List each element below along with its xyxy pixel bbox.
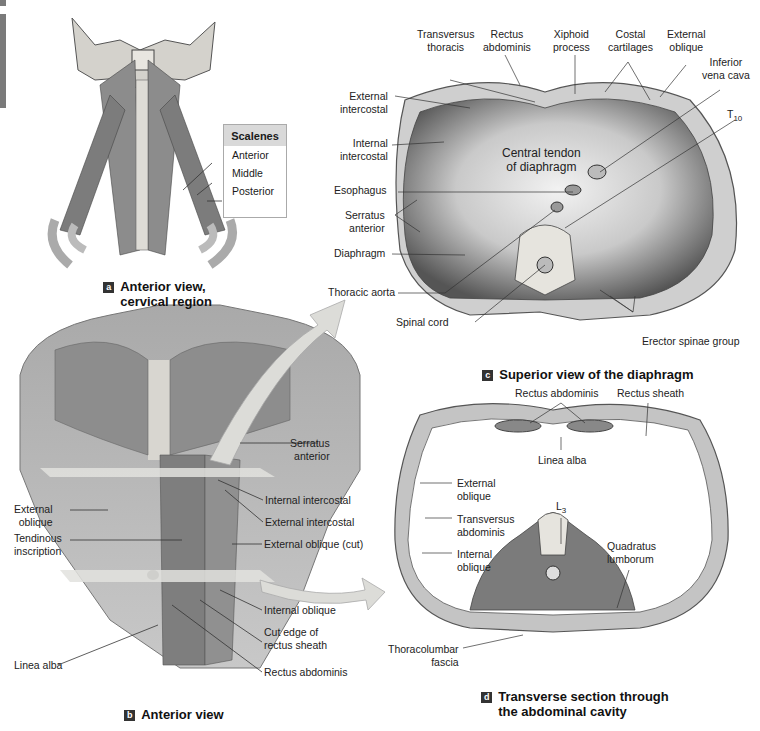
abdominal-section-drawing [395, 403, 728, 648]
d-l3-label: L3 [556, 500, 566, 517]
panel-b-caption: bAnterior view [117, 692, 224, 722]
scalenes-legend-title: Scalenes [224, 125, 286, 146]
d-rectus-abdominis-label: Rectus abdominis [515, 387, 598, 400]
b-cut-edge-label: Cut edge of rectus sheath [264, 626, 327, 652]
panel-c-badge: c [482, 370, 493, 381]
c-diaphragm-label: Diaphragm [334, 247, 385, 260]
cervical-region-drawing [52, 18, 232, 265]
scalenes-legend: Scalenes Anterior Middle Posterior [223, 124, 287, 218]
d-linea-alba-label: Linea alba [538, 454, 586, 467]
panel-d-badge: d [481, 692, 492, 703]
b-external-oblique-cut-label: External oblique (cut) [264, 538, 363, 551]
c-transversus-thoracis-label: Transversus thoracis [417, 28, 474, 54]
panel-b-badge: b [124, 710, 135, 721]
b-external-oblique-label: External oblique [14, 503, 53, 529]
scalenes-posterior-label: Posterior [224, 182, 286, 200]
c-t10-label: T10 [727, 108, 742, 125]
c-central-tendon-label: Central tendon of diaphragm [502, 146, 581, 174]
panel-c-caption: cSuperior view of the diaphragm [475, 352, 694, 382]
d-quadratus-lumborum-label: Quadratus lumborum [607, 540, 656, 566]
c-costal-cartilages-label: Costal cartilages [608, 28, 653, 54]
c-rectus-abdominis-label: Rectus abdominis [483, 28, 531, 54]
b-external-intercostal-label: External intercostal [265, 516, 354, 529]
scalenes-middle-label: Middle [224, 164, 286, 182]
panel-c-caption-text: Superior view of the diaphragm [499, 367, 693, 382]
d-thoracolumbar-fascia-label: Thoracolumbar fascia [388, 643, 459, 669]
b-linea-alba-label: Linea alba [14, 659, 62, 672]
d-l3-sub: 3 [562, 506, 566, 515]
c-internal-intercostal-label: Internal intercostal [340, 137, 388, 163]
c-external-oblique-label: External oblique [667, 28, 706, 54]
panel-a-caption: aAnterior view, cervical region [96, 264, 212, 309]
c-serratus-anterior-label: Serratus anterior [345, 209, 385, 235]
d-rectus-sheath-label: Rectus sheath [617, 387, 684, 400]
b-rectus-abdominis-label: Rectus abdominis [264, 666, 347, 679]
c-xiphoid-process-label: Xiphoid process [553, 28, 590, 54]
panel-d-caption-text: Transverse section through the abdominal… [498, 689, 669, 719]
panel-d-caption: dTransverse section through the abdomina… [474, 674, 669, 719]
c-t10-sub: 10 [733, 114, 742, 123]
c-esophagus-label: Esophagus [334, 184, 387, 197]
panel-b-caption-text: Anterior view [141, 707, 223, 722]
d-external-oblique-label: External oblique [457, 477, 496, 503]
panel-a-badge: a [103, 282, 114, 293]
panel-a-caption-text: Anterior view, cervical region [120, 279, 212, 309]
b-tendinous-inscription-label: Tendinous inscription [14, 532, 62, 558]
scalenes-anterior-label: Anterior [224, 146, 286, 164]
c-external-intercostal-label: External intercostal [340, 90, 388, 116]
b-internal-oblique-label: Internal oblique [264, 604, 336, 617]
diaphragm-section-drawing [392, 55, 737, 322]
b-internal-intercostal-label: Internal intercostal [265, 494, 351, 507]
c-spinal-cord-label: Spinal cord [396, 316, 449, 329]
c-erector-spinae-label: Erector spinae group [642, 335, 739, 348]
d-transversus-abdominis-label: Transversus abdominis [457, 513, 514, 539]
c-thoracic-aorta-label: Thoracic aorta [328, 286, 395, 299]
d-internal-oblique-label: Internal oblique [457, 548, 492, 574]
b-serratus-anterior-label: Serratus anterior [290, 437, 330, 463]
c-inferior-vena-cava-label: Inferior vena cava [702, 56, 750, 82]
